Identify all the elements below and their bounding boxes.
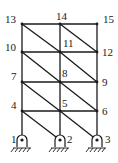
node-label-13: 13: [5, 13, 17, 25]
node-label-1: 1: [11, 133, 17, 145]
node-label-9: 9: [102, 76, 108, 88]
node-5: [59, 110, 62, 113]
node-label-3: 3: [105, 133, 111, 145]
node-11: [59, 51, 62, 54]
supports: [11, 135, 106, 152]
node-label-10: 10: [5, 41, 17, 53]
node-15: [96, 23, 99, 26]
member-7-5: [22, 82, 60, 111]
node-14: [59, 23, 62, 26]
node-label-11: 11: [63, 37, 74, 49]
truss-canvas: 123456789101112131415: [0, 0, 118, 163]
node-8: [59, 81, 62, 84]
truss-diagram: 123456789101112131415: [0, 0, 118, 163]
node-label-15: 15: [103, 13, 115, 25]
node-4: [21, 110, 24, 113]
node-7: [21, 81, 24, 84]
member-13-11: [22, 24, 60, 52]
member-10-8: [22, 52, 60, 82]
node-10: [21, 51, 24, 54]
node-label-8: 8: [62, 67, 68, 79]
node-9: [96, 81, 99, 84]
node-label-7: 7: [11, 70, 17, 82]
node-label-5: 5: [62, 97, 68, 109]
member-4-2: [22, 111, 60, 140]
node-label-4: 4: [11, 99, 17, 111]
node-label-14: 14: [56, 10, 68, 22]
node-label-12: 12: [102, 46, 113, 58]
node-label-6: 6: [102, 105, 108, 117]
node-label-2: 2: [67, 133, 73, 145]
node-6: [96, 110, 99, 113]
node-12: [96, 51, 99, 54]
node-13: [21, 23, 24, 26]
pin-support-icon-3: [86, 135, 106, 152]
pin-support-icon-2: [49, 135, 69, 152]
member-5-3: [60, 111, 97, 140]
